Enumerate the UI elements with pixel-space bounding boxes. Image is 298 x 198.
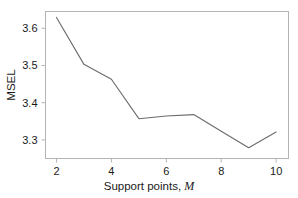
x-tick-label: 10: [270, 165, 282, 177]
x-axis-label-symbol: M: [183, 179, 195, 193]
x-axis-label-text: Support points,: [104, 180, 185, 192]
x-tick-label: 4: [108, 165, 114, 177]
y-tick-label: 3.4: [22, 97, 37, 109]
y-tick-label: 3.5: [22, 59, 37, 71]
x-axis-label: Support points, M: [104, 179, 196, 193]
x-tick-label: 6: [163, 165, 169, 177]
y-tick-label: 3.6: [22, 22, 37, 34]
chart-background: [0, 0, 298, 198]
y-tick-label: 3.3: [22, 134, 37, 146]
x-tick-label: 8: [218, 165, 224, 177]
line-chart: 3.33.43.53.6 246810 MSEL Support points,…: [0, 0, 298, 198]
x-tick-label: 2: [53, 165, 59, 177]
chart-figure: 3.33.43.53.6 246810 MSEL Support points,…: [0, 0, 298, 198]
y-axis-label: MSEL: [5, 69, 17, 101]
